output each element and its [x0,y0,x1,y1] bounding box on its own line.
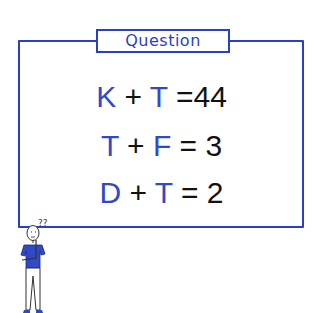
operator: + [127,129,145,162]
variable: K [96,80,116,113]
question-label: Question [96,29,230,53]
equals-sign: = [181,176,199,209]
variable: D [99,176,121,209]
equation-2: T + F = 3 [0,129,323,163]
result: 44 [193,80,226,113]
variable: F [153,129,171,162]
result: 3 [205,129,222,162]
variable: T [155,176,173,209]
operator: + [129,176,147,209]
equals-sign: = [176,80,194,113]
equation-1: K + T =44 [0,80,323,114]
question-marks: ?? [38,218,48,228]
variable: T [101,129,119,162]
equals-sign: = [180,129,198,162]
variable: T [150,80,168,113]
equation-3: D + T = 2 [0,176,323,210]
result: 2 [207,176,224,209]
operator: + [124,80,142,113]
thinking-person-icon: ?? [16,216,62,313]
